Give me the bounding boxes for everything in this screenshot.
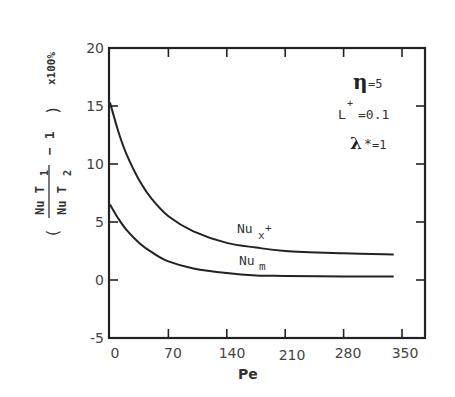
x-axis-label: Pe: [238, 366, 258, 382]
series-label-num: Nu m: [239, 253, 266, 273]
svg-text:280: 280: [335, 345, 362, 361]
svg-text:=5: =5: [368, 77, 382, 91]
svg-text:L: L: [338, 107, 346, 122]
svg-text:140: 140: [219, 345, 246, 361]
series-curves: [110, 103, 394, 277]
y-tick-labels: 20 15 10 5 0 -5: [86, 40, 104, 346]
svg-text:Nu T: Nu T: [55, 186, 69, 215]
y-axis-label: ( Nu T 1 Nu T 2 − 1 ) x100%: [33, 52, 73, 238]
annotation-lambda: λ * =1: [350, 133, 386, 153]
plot-frame: [109, 48, 425, 338]
svg-text:=0.1: =0.1: [358, 107, 389, 122]
svg-text:Nu: Nu: [237, 221, 253, 236]
svg-text:+: +: [347, 98, 353, 109]
svg-text:*: *: [364, 136, 372, 151]
svg-text:2: 2: [62, 170, 73, 176]
svg-text:m: m: [259, 260, 266, 273]
svg-text:5: 5: [95, 214, 104, 230]
annotation-eta: η =5: [353, 70, 382, 94]
axis-ticks: [109, 48, 425, 338]
svg-text:λ: λ: [350, 133, 362, 153]
svg-text:): ): [43, 105, 62, 115]
svg-text:-5: -5: [90, 330, 104, 346]
svg-text:Nu: Nu: [239, 253, 255, 268]
svg-text:0: 0: [111, 345, 120, 361]
series-label-nux: Nu x +: [237, 221, 272, 242]
svg-text:=1: =1: [372, 138, 386, 152]
svg-text:x100%: x100%: [45, 52, 58, 85]
svg-text:x: x: [258, 229, 265, 242]
annotation-lplus: L + =0.1: [338, 98, 389, 122]
svg-text:Nu T: Nu T: [33, 186, 47, 215]
svg-text:70: 70: [164, 345, 182, 361]
svg-text:0: 0: [95, 272, 104, 288]
svg-text:+: +: [265, 222, 272, 235]
svg-text:η: η: [353, 70, 368, 94]
chart: 20 15 10 5 0 -5 0 70 140 210 280 350 Pe …: [0, 0, 455, 397]
svg-text:10: 10: [86, 156, 104, 172]
svg-text:350: 350: [392, 345, 419, 361]
svg-text:210: 210: [279, 347, 306, 363]
svg-text:− 1: − 1: [42, 131, 57, 155]
svg-text:(: (: [43, 228, 62, 238]
svg-text:20: 20: [86, 40, 104, 56]
x-tick-labels: 0 70 140 210 280 350: [111, 345, 419, 363]
svg-text:15: 15: [86, 98, 104, 114]
